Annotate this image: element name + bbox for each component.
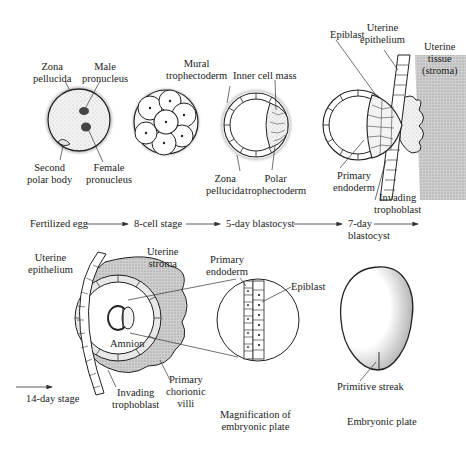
label-second-polar-body: Secondpolar body [27, 162, 72, 186]
male-pronucleus [79, 107, 89, 115]
label-primitive-streak: Primitive streak [337, 381, 404, 393]
eight-cell-stage [130, 86, 202, 158]
label-mural-trophectoderm: Muraltrophectoderm [166, 58, 227, 82]
label-uterine-tissue: Uterinetissue(stroma) [422, 41, 458, 77]
label-inner-cell-mass: Inner cell mass [233, 70, 297, 82]
caption-magnification: Magnification ofembryonic plate [220, 409, 291, 433]
label-zona-pellucida-5day: Zonapellucida [206, 173, 244, 197]
embryonic-plate [341, 267, 413, 381]
caption-embryonic-plate: Embryonic plate [347, 416, 417, 428]
timeline-14-day-stage: 14-day stage [26, 393, 79, 405]
label-uterine-epithelium-14day: Uterineepithelium [28, 252, 73, 276]
timeline-7-day-blastocyst: 7-dayblastocyst [348, 218, 390, 242]
label-uterine-epithelium-7day: Uterineepithelium [360, 22, 405, 46]
label-uterine-stroma: Uterinestroma [147, 246, 179, 270]
label-invading-trophoblast-7day: Invadingtrophoblast [374, 192, 421, 216]
label-amnion: Amnion [110, 338, 144, 350]
five-day-blastocyst [218, 80, 294, 171]
timeline-5-day-blastocyst: 5-day blastocyst [226, 218, 295, 230]
female-pronucleus [81, 123, 91, 132]
label-primary-chorionic-villi: Primarychorionicvilli [166, 374, 206, 410]
label-epiblast-mag: Epiblast [291, 281, 325, 293]
label-male-pronucleus: Malepronucleus [82, 61, 128, 85]
timeline-fertilized-egg: Fertilized egg [30, 218, 88, 230]
timeline-8-cell-stage: 8-cell stage [134, 218, 182, 230]
label-primary-endoderm-mag: Primaryendoderm [206, 254, 248, 278]
label-invading-trophoblast-14day: Invadingtrophoblast [112, 387, 159, 411]
label-female-pronucleus: Femalepronucleus [86, 162, 132, 186]
magnification-circle [217, 278, 299, 361]
label-polar-trophectoderm: Polartrophectoderm [245, 173, 306, 197]
label-primary-endoderm-7day: Primaryendoderm [333, 170, 375, 194]
fertilized-egg [43, 81, 115, 162]
label-zona-pellucida: Zonapellucida [33, 61, 71, 85]
